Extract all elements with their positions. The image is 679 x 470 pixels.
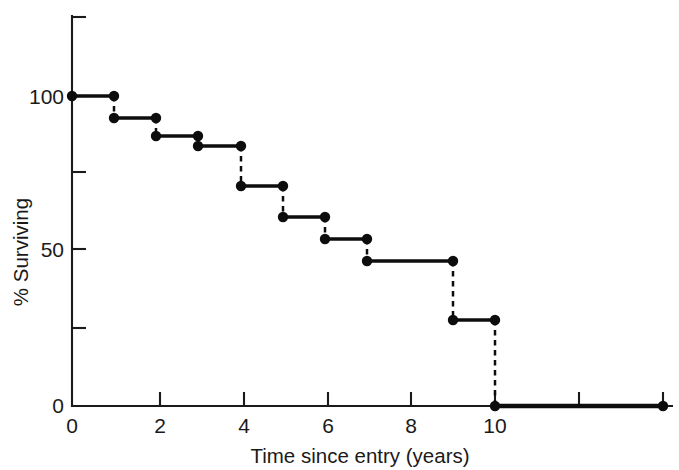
x-tick-label-0: 0 xyxy=(66,414,78,437)
y-axis-title: % Surviving xyxy=(9,198,32,306)
marker-t7-end xyxy=(362,234,372,244)
x-tick-label-6: 6 xyxy=(322,414,334,437)
y-tick-label-50: 50 xyxy=(41,238,64,261)
x-tick-label-10: 10 xyxy=(483,414,506,437)
marker-t10-zero xyxy=(490,401,500,411)
survival-step-drops xyxy=(114,96,495,406)
marker-t9-end xyxy=(448,256,458,266)
marker-t5-end xyxy=(278,181,288,191)
x-tick-label-8: 8 xyxy=(405,414,417,437)
y-axis-ticks xyxy=(72,17,86,328)
y-tick-label-0: 0 xyxy=(52,394,64,417)
x-axis-tick-labels: 0 2 4 6 8 10 xyxy=(66,414,507,437)
marker-t9-start xyxy=(448,315,458,325)
x-tick-label-4: 4 xyxy=(238,414,250,437)
chart-canvas: 100 50 0 0 2 4 6 8 10 xyxy=(0,0,679,470)
marker-t3-end xyxy=(193,131,203,141)
x-axis-title: Time since entry (years) xyxy=(250,444,469,467)
marker-t6-end xyxy=(320,212,330,222)
axes-group xyxy=(72,16,672,406)
marker-t7-start xyxy=(362,256,372,266)
marker-t0-start xyxy=(67,91,77,101)
marker-t4-end xyxy=(236,141,246,151)
marker-t10-end xyxy=(490,315,500,325)
marker-t5-start xyxy=(278,212,288,222)
marker-t1-end xyxy=(109,91,119,101)
marker-t2-end xyxy=(151,113,161,123)
marker-t3-start xyxy=(193,141,203,151)
marker-tail-end xyxy=(658,401,668,411)
x-tick-label-2: 2 xyxy=(154,414,166,437)
y-tick-label-100: 100 xyxy=(29,85,64,108)
marker-t2-start xyxy=(151,131,161,141)
marker-t4-start xyxy=(236,181,246,191)
marker-t1-start xyxy=(109,113,119,123)
y-axis-tick-labels: 100 50 0 xyxy=(29,85,64,417)
survival-curve-figure: 100 50 0 0 2 4 6 8 10 xyxy=(0,0,679,470)
marker-t6-start xyxy=(320,234,330,244)
